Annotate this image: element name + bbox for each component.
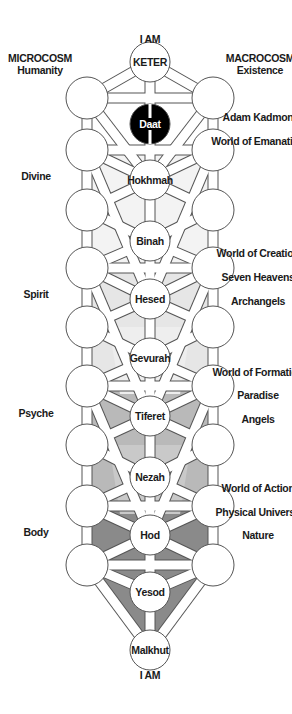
side-circle-right — [192, 544, 234, 586]
top-i-am-label: I AM — [140, 33, 161, 45]
side-circle-left — [66, 485, 108, 527]
side-circle-left — [66, 247, 108, 289]
tree-of-life-diagram: KETERDaatHokhmahBinahHesedGevurahTiferet… — [0, 0, 292, 714]
sephirah-tiferet: Tiferet — [130, 396, 170, 436]
sephirah-label: Daat — [139, 118, 161, 130]
bottom-i-am-label: I AM — [140, 669, 161, 681]
macrocosm-level-label: Physical Universe — [216, 506, 292, 518]
sephirah-label: Malkhut — [131, 644, 169, 656]
side-circle-left — [66, 189, 108, 231]
sephirah-gevurah: Gevurah — [130, 338, 171, 378]
macrocosm-level-label: Seven Heavens — [221, 271, 292, 283]
sephirah-label: Gevurah — [130, 352, 171, 364]
sephirah-hod: Hod — [130, 515, 170, 555]
microcosm-level-label: Psyche — [19, 407, 54, 419]
microcosm-title: MICROCOSM — [8, 52, 72, 64]
side-circle-left — [66, 306, 108, 348]
macrocosm-title: MACROCOSM — [226, 52, 292, 64]
sephirah-label: Hod — [140, 529, 160, 541]
sephirah-label: Hokhmah — [127, 174, 173, 186]
sephirah-daat: Daat — [130, 104, 170, 144]
side-circle-right — [192, 189, 234, 231]
side-circle-right — [192, 306, 234, 348]
sephirah-nezah: Nezah — [130, 457, 170, 497]
sephirah-keter: KETER — [130, 42, 170, 82]
sephirah-label: Tiferet — [135, 410, 166, 422]
sephirah-yesod: Yesod — [130, 572, 170, 612]
side-circle-left — [66, 365, 108, 407]
microcosm-level-label: Divine — [21, 170, 51, 182]
sephirah-hesed: Hesed — [130, 279, 170, 319]
side-circle-left — [66, 77, 108, 119]
sephirah-malkhut: Malkhut — [130, 630, 170, 670]
sephirah-label: Binah — [136, 235, 164, 247]
microcosm-level-label: Body — [23, 526, 48, 538]
side-circle-left — [66, 424, 108, 466]
macrocosm-level-label: World of Formation — [212, 366, 292, 378]
sephirah-label: Yesod — [135, 586, 164, 598]
side-circle-left — [66, 544, 108, 586]
macrocosm-level-label: World of Emanation — [211, 135, 292, 147]
macrocosm-level-label: Angels — [241, 413, 274, 425]
microcosm-level-label: Spirit — [23, 288, 48, 300]
sephirah-label: KETER — [133, 56, 168, 68]
macrocosm-level-label: Nature — [242, 529, 273, 541]
macrocosm-level-label: World of Creation — [217, 247, 292, 259]
macrocosm-level-label: World of Action — [221, 482, 292, 494]
sephirah-label: Nezah — [135, 471, 164, 483]
sephirah-binah: Binah — [130, 221, 170, 261]
side-circle-left — [66, 129, 108, 171]
macrocosm-level-label: Archangels — [231, 295, 285, 307]
macrocosm-level-label: Adam Kadmon — [223, 111, 292, 123]
sephirah-label: Hesed — [135, 293, 165, 305]
macrocosm-subtitle: Existence — [237, 64, 283, 76]
macrocosm-level-label: Paradise — [237, 389, 278, 401]
side-circle-right — [192, 424, 234, 466]
microcosm-subtitle: Humanity — [17, 64, 62, 76]
